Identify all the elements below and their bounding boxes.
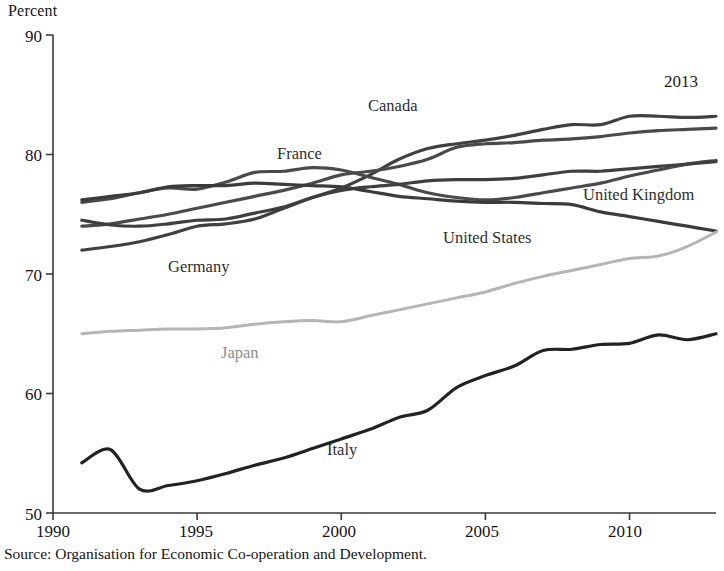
x-tick-label-2005: 2005: [465, 522, 499, 541]
source-note: Source: Organisation for Economic Co-ope…: [4, 545, 427, 563]
y-tick-label-60: 60: [25, 385, 42, 404]
series-inline-labels: Canada France Germany United Kingdom Uni…: [168, 96, 695, 459]
x-tick-label-2000: 2000: [322, 522, 356, 541]
series-label-japan: Japan: [221, 343, 259, 362]
series-label-france: France: [277, 144, 322, 163]
chart-figure: Percent 2013 90 80 70 60 50 1990 1995 20…: [0, 0, 724, 571]
x-tick-labels: 1990 1995 2000 2005 2010: [36, 522, 642, 541]
series-line-italy: [82, 334, 716, 491]
series-label-united-states: United States: [443, 228, 531, 247]
x-tick-marks: [53, 513, 630, 520]
series-label-germany: Germany: [168, 257, 230, 276]
series-lines-group: [82, 116, 716, 492]
series-label-italy: Italy: [327, 440, 358, 459]
y-tick-label-80: 80: [25, 146, 42, 165]
x-tick-label-1995: 1995: [179, 522, 213, 541]
x-tick-label-1990: 1990: [36, 522, 70, 541]
series-line-japan: [82, 232, 716, 334]
series-label-canada: Canada: [368, 96, 418, 115]
y-tick-marks: [46, 35, 53, 513]
y-tick-labels: 90 80 70 60 50: [25, 27, 42, 524]
x-tick-label-2010: 2010: [608, 522, 642, 541]
line-chart-plot: 90 80 70 60 50 1990 1995 2000 2005 2010 …: [0, 0, 724, 571]
y-tick-label-70: 70: [25, 266, 42, 285]
y-tick-label-90: 90: [25, 27, 42, 46]
series-label-united-kingdom: United Kingdom: [583, 185, 695, 204]
